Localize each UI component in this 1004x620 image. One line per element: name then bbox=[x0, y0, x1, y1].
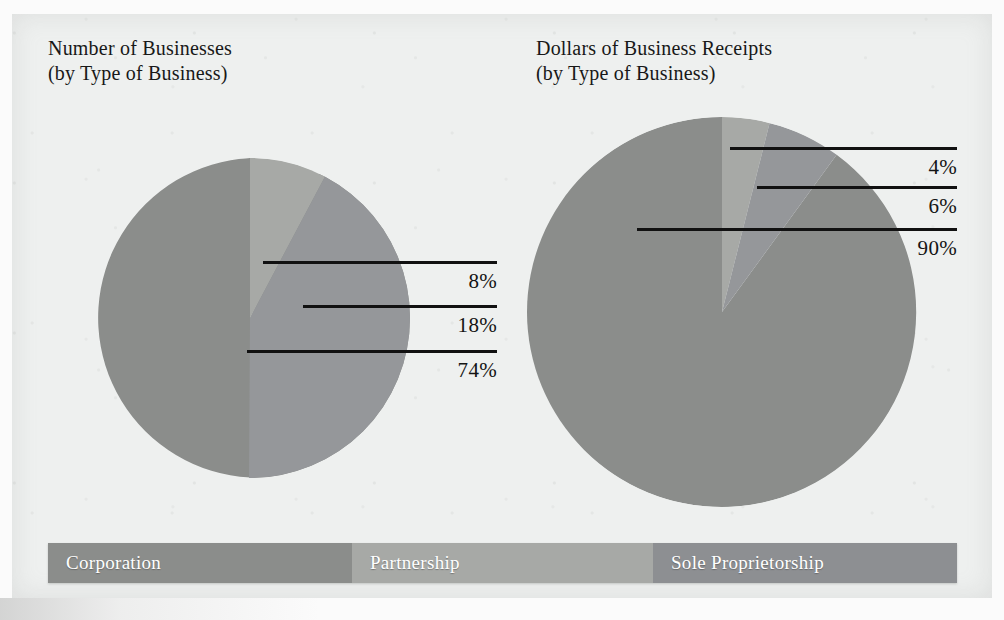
leader-line-left-74 bbox=[247, 350, 497, 353]
pie-chart-dollars-of-business-receipts bbox=[527, 117, 917, 507]
pie-label-left-8: 8% bbox=[427, 271, 497, 292]
legend-item-corporation: Corporation bbox=[48, 543, 352, 583]
pie-label-right-90: 90% bbox=[877, 238, 957, 259]
chart-title-number-of-businesses: Number of Businesses (by Type of Busines… bbox=[48, 36, 232, 86]
chart-title-dollars-of-business-receipts: Dollars of Business Receipts (by Type of… bbox=[536, 36, 772, 86]
legend: Corporation Partnership Sole Proprietors… bbox=[48, 543, 957, 583]
scan-edge-shadow bbox=[0, 598, 1004, 620]
pie-label-right-4: 4% bbox=[887, 157, 957, 178]
legend-label-partnership: Partnership bbox=[352, 552, 460, 574]
figure-canvas: Number of Businesses (by Type of Busines… bbox=[0, 0, 1004, 620]
legend-label-corporation: Corporation bbox=[48, 552, 161, 574]
leader-line-left-18 bbox=[303, 305, 497, 308]
leader-line-right-6 bbox=[757, 186, 957, 189]
pie-label-right-6: 6% bbox=[887, 196, 957, 217]
pie-slice-corporation bbox=[527, 117, 916, 507]
pie-chart-number-of-businesses bbox=[90, 158, 410, 478]
leader-line-left-8 bbox=[263, 261, 497, 264]
legend-label-sole-proprietorship: Sole Proprietorship bbox=[653, 552, 824, 574]
pie-label-left-18: 18% bbox=[417, 315, 497, 336]
legend-item-partnership: Partnership bbox=[352, 543, 653, 583]
leader-line-right-90 bbox=[637, 228, 957, 231]
leader-line-right-4 bbox=[730, 147, 957, 150]
legend-item-sole-proprietorship: Sole Proprietorship bbox=[653, 543, 957, 583]
pie-label-left-74: 74% bbox=[417, 360, 497, 381]
